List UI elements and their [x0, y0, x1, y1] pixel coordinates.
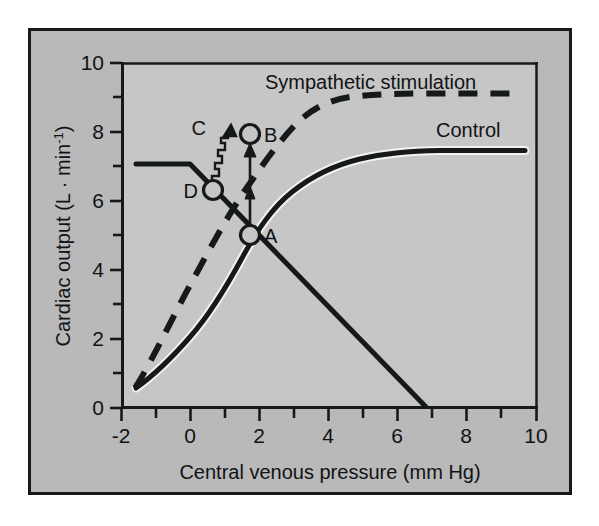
x-tick-label-2: 2 [253, 424, 265, 447]
y-axis-ticks [110, 63, 122, 408]
y-tick-label-6: 6 [92, 189, 104, 212]
y-tick-label-0: 0 [92, 396, 104, 419]
y-tick-label-2: 2 [92, 327, 104, 350]
sympathetic-stimulation-label: Sympathetic stimulation [265, 71, 476, 93]
point-A-marker[interactable] [241, 226, 260, 245]
figure-root: 0 2 4 6 8 10 -2 0 2 4 [0, 0, 599, 526]
point-label-B: B [264, 124, 277, 146]
point-D-marker[interactable] [204, 181, 223, 200]
x-axis-tick-labels: -2 0 2 4 6 8 10 [112, 424, 548, 447]
point-label-D: D [184, 180, 198, 202]
y-tick-label-8: 8 [92, 120, 104, 143]
cardiac-output-chart: 0 2 4 6 8 10 -2 0 2 4 [0, 0, 599, 526]
y-axis-title-superscript: -1 [51, 132, 66, 144]
point-B-marker[interactable] [241, 125, 260, 144]
y-axis-title-main: Cardiac output (L · min [52, 144, 74, 347]
svg-text:Cardiac output (L · min-1): Cardiac output (L · min-1) [51, 126, 74, 347]
x-tick-label-8: 8 [460, 424, 472, 447]
x-tick-label-6: 6 [391, 424, 403, 447]
plot-area-background [121, 62, 538, 409]
y-axis-title: Cardiac output (L · min-1) [51, 126, 74, 347]
y-tick-label-10: 10 [81, 51, 104, 74]
y-axis-title-close: ) [52, 126, 74, 133]
point-label-A: A [264, 225, 278, 247]
x-tick-label-neg2: -2 [112, 424, 131, 447]
y-tick-label-4: 4 [92, 258, 104, 281]
x-axis-ticks [122, 409, 537, 421]
y-axis-tick-labels: 0 2 4 6 8 10 [81, 51, 105, 419]
control-label: Control [436, 119, 500, 141]
x-axis-title: Central venous pressure (mm Hg) [179, 461, 480, 483]
x-tick-label-4: 4 [322, 424, 334, 447]
point-label-C: C [192, 117, 206, 139]
x-tick-label-10: 10 [524, 424, 547, 447]
x-tick-label-0: 0 [184, 424, 196, 447]
